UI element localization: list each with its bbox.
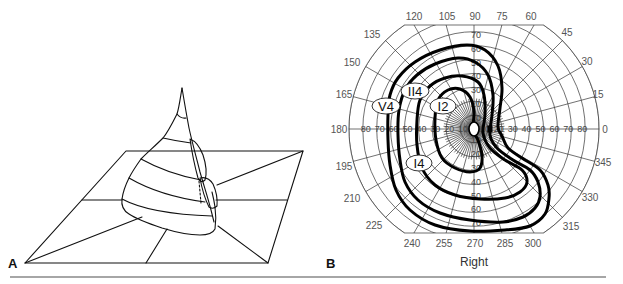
ecc-label-h: 80 — [577, 124, 587, 134]
ecc-label-v: 30 — [471, 85, 481, 95]
ecc-label-h: 50 — [402, 124, 412, 134]
meridian-label-255: 255 — [436, 238, 453, 249]
meridian-label-135: 135 — [364, 29, 381, 40]
meridian-label-150: 150 — [344, 57, 361, 68]
meridian-label-105: 105 — [439, 11, 456, 22]
meridian-label-225: 225 — [366, 220, 383, 231]
isopter-label-text: V4 — [378, 99, 394, 114]
meridian-label-210: 210 — [344, 193, 361, 204]
ecc-label-h: 80 — [361, 124, 371, 134]
meridian-240 — [409, 129, 474, 242]
hill-lobe — [190, 139, 206, 182]
hill-contour-band — [129, 178, 205, 202]
ecc-label-h: 20 — [444, 124, 454, 134]
ecc-label-h: 50 — [535, 124, 545, 134]
meridian-label-45: 45 — [561, 27, 573, 38]
plane-line — [25, 217, 142, 263]
panel-b-letter: B — [326, 256, 335, 271]
field-plane — [25, 151, 303, 263]
meridian-label-165: 165 — [336, 89, 353, 100]
isopter-label-v4: V4 — [372, 98, 400, 114]
panel-b-visual-field-chart: 1010101020202020303030304040404050505050… — [331, 0, 612, 259]
isopter-label-text: II4 — [408, 84, 422, 99]
isopter-label-text: I2 — [438, 99, 449, 114]
meridian-label-315: 315 — [563, 221, 580, 232]
meridian-label-345: 345 — [595, 157, 612, 168]
panel-a-letter: A — [8, 256, 18, 271]
ecc-label-h: 40 — [522, 124, 532, 134]
isopter-label-i4: I4 — [406, 155, 432, 171]
ecc-label-v: 20 — [471, 149, 481, 159]
hill-contour-band — [141, 159, 201, 180]
ecc-label-h: 30 — [508, 124, 518, 134]
isopter-label-ii4: II4 — [401, 83, 429, 99]
ecc-label-v: 70 — [471, 30, 481, 40]
meridian-label-120: 120 — [406, 11, 423, 22]
meridian-label-30: 30 — [581, 56, 593, 67]
meridian-label-300: 300 — [525, 238, 542, 249]
hill-of-vision-surface — [122, 88, 217, 235]
blind-spot — [488, 126, 493, 133]
hill-contour-band — [163, 138, 191, 143]
ecc-label-h: 10 — [458, 124, 468, 134]
fixation-oval — [469, 122, 479, 136]
meridian-label-285: 285 — [497, 238, 514, 249]
eye-label: Right — [460, 255, 489, 269]
hill-ridge — [182, 88, 214, 222]
meridian-label-270: 270 — [467, 238, 484, 249]
meridian-345 — [474, 129, 600, 163]
meridian-label-195: 195 — [336, 161, 353, 172]
ecc-label-v: 60 — [471, 204, 481, 214]
ecc-label-h: 70 — [563, 124, 573, 134]
isopter-label-i2: I2 — [430, 98, 456, 114]
ecc-label-v: 40 — [471, 177, 481, 187]
meridian-label-180: 180 — [331, 124, 348, 135]
meridian-label-75: 75 — [496, 11, 508, 22]
meridian-label-15: 15 — [592, 89, 604, 100]
ecc-label-h: 60 — [549, 124, 559, 134]
plane-line — [218, 226, 268, 263]
plane-line — [217, 151, 303, 185]
figure-canvas: A 10101010202020203030303040404040505050… — [0, 0, 623, 284]
panel-a-hill-of-vision — [25, 88, 303, 263]
isopter-label-text: I4 — [414, 156, 425, 171]
meridian-label-60: 60 — [525, 11, 537, 22]
plane-line — [146, 229, 167, 263]
ecc-label-h: 70 — [375, 124, 385, 134]
meridian-label-240: 240 — [404, 238, 421, 249]
meridian-label-330: 330 — [582, 192, 599, 203]
meridian-label-90: 90 — [469, 11, 481, 22]
meridian-label-0: 0 — [602, 124, 608, 135]
hill-contour-band — [177, 114, 186, 118]
